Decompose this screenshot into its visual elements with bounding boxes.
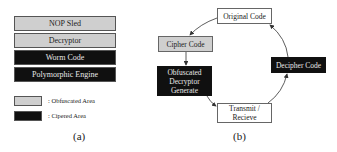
node-cipher-code: Cipher Code (158, 36, 213, 52)
node-transmit-recieve: Transmit / Recieve (217, 103, 272, 123)
node-obfuscated-line3: Generate (171, 86, 198, 95)
node-original-code: Original Code (217, 8, 272, 24)
node-obfuscated-line1: Obfuscated (167, 68, 201, 77)
node-obfuscated-line2: Decryptor (169, 77, 199, 86)
node-decipher-code: Decipher Code (271, 57, 326, 73)
node-transmit-line1: Transmit / (229, 104, 260, 113)
node-transmit-line2: Recieve (232, 113, 256, 122)
node-obfuscated-decryptor-generate: Obfuscated Decryptor Generate (157, 66, 212, 96)
caption-b: (b) (233, 130, 246, 142)
